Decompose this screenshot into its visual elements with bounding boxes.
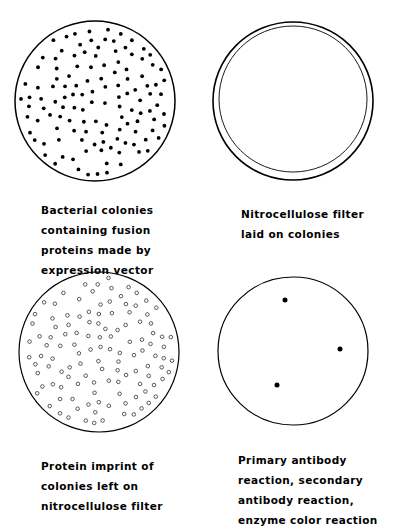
imprint-dot [45, 343, 49, 347]
colony-dot [118, 128, 122, 132]
imprint-dot [27, 355, 31, 359]
imprint-dot [154, 395, 158, 399]
imprint-dot [89, 348, 93, 352]
imprint-dot [151, 331, 155, 335]
positive-colony-spot [338, 347, 343, 352]
colony-dot [73, 32, 77, 36]
imprint-dot [94, 410, 98, 414]
imprint-dot [138, 382, 142, 386]
imprint-dot [134, 369, 138, 373]
imprint-dot [116, 368, 120, 372]
colony-dot [119, 163, 123, 167]
colony-dot [99, 148, 103, 152]
imprint-dot [84, 374, 88, 378]
colony-dot [148, 92, 152, 96]
imprint-dot [134, 304, 138, 308]
colony-dot [77, 167, 81, 171]
colony-dot [117, 151, 121, 155]
colony-dot [36, 65, 40, 69]
colony-dot [125, 92, 129, 96]
imprint-dot [78, 315, 82, 319]
colony-dot [154, 83, 158, 87]
colony-dot [117, 95, 121, 99]
imprint-dot [76, 407, 80, 411]
imprint-dot [51, 382, 55, 386]
imprint-dot [51, 357, 55, 361]
colony-dot [126, 77, 130, 81]
imprint-dot [41, 385, 45, 389]
imprint-dot [160, 366, 164, 370]
imprint-dot [116, 328, 120, 332]
imprint-dot [98, 335, 102, 339]
colony-dot [163, 124, 167, 128]
colony-dot [48, 113, 52, 117]
imprint-dot [53, 302, 57, 306]
colony-dot [83, 50, 87, 54]
imprint-dot [59, 385, 63, 389]
colony-dot [86, 173, 90, 177]
colony-dot [142, 47, 146, 51]
imprint-dot [140, 407, 144, 411]
colony-dot [89, 65, 93, 69]
caption-protein-imprint: Protein imprint of colonies left on nitr… [41, 451, 163, 521]
colony-dot [19, 97, 23, 101]
colony-dot [103, 85, 107, 89]
imprint-dot [127, 285, 131, 289]
colony-dot [118, 105, 122, 109]
imprint-dot [160, 335, 164, 339]
imprint-dot [87, 310, 91, 314]
imprint-dot [67, 375, 71, 379]
colony-dot [126, 122, 130, 126]
colony-dot [42, 106, 46, 110]
imprint-dot [117, 360, 121, 364]
imprint-dot [88, 320, 92, 324]
positive-colony-spot [283, 298, 288, 303]
imprint-dot [140, 338, 144, 342]
colony-dot [36, 119, 40, 123]
colony-dot [151, 63, 155, 67]
imprint-dot [79, 362, 83, 366]
imprint-dot [146, 313, 150, 317]
imprint-dot [170, 359, 174, 363]
imprint-dot [149, 322, 153, 326]
colony-dot [162, 112, 166, 116]
colony-dot [55, 67, 59, 71]
colony-dot [42, 142, 46, 146]
colony-dot [36, 86, 40, 90]
colony-dot [106, 28, 110, 32]
colony-dot [28, 95, 32, 99]
imprint-dot [124, 323, 128, 327]
colony-dot [136, 119, 140, 123]
imprint-dot [38, 335, 42, 339]
colony-dot [140, 74, 144, 78]
imprint-dot [49, 336, 53, 340]
imprint-dot [169, 335, 173, 339]
colony-dot [151, 128, 155, 132]
imprint-dot [119, 294, 123, 298]
imprint-dot [75, 331, 79, 335]
colony-dot [152, 117, 156, 121]
imprint-dot [47, 365, 51, 369]
colony-dot [71, 93, 75, 97]
colony-dot [94, 119, 98, 123]
colony-dot [133, 88, 137, 92]
imprint-dot [67, 416, 71, 420]
colony-dot [39, 97, 43, 101]
colony-dot [159, 92, 163, 96]
imprint-dot [147, 401, 151, 405]
imprint-dot [35, 391, 39, 395]
imprint-dot [28, 340, 32, 344]
caption-nitrocellulose-filter: Nitrocellulose filter laid on colonies [241, 199, 364, 249]
colony-dot [145, 84, 149, 88]
imprint-dot [108, 347, 112, 351]
imprint-dot [118, 351, 122, 355]
colony-dot [80, 93, 84, 97]
colony-dot [26, 115, 30, 119]
colony-dot [74, 84, 78, 88]
imprint-dot [109, 335, 113, 339]
imprint-dot [124, 302, 128, 306]
colony-dot [105, 161, 109, 165]
colony-dot [65, 35, 69, 39]
imprint-dot [97, 359, 101, 363]
colony-dot [72, 106, 76, 110]
